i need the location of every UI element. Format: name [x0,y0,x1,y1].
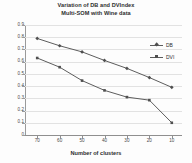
chart-title-block: Variation of DB and DVIndex Multi-SOM wi… [0,2,192,17]
chart-title: Variation of DB and DVIndex [0,2,192,10]
data-point-db [103,59,107,63]
x-tick-label: 10 [163,139,181,144]
data-point-dvi [58,66,61,69]
data-point-db [148,76,152,80]
x-tick-label: 60 [51,139,69,144]
y-tick-mark [22,135,25,136]
chart-container: Variation of DB and DVIndex Multi-SOM wi… [0,0,192,163]
square-marker-icon [155,55,158,58]
legend-label-db: DB [166,41,173,50]
x-tick-label: 50 [73,139,91,144]
data-point-db [35,37,39,41]
chart-subtitle: Multi-SOM with Wine data [0,10,192,18]
data-point-dvi [81,79,84,82]
data-point-dvi [170,121,173,124]
diamond-marker-icon [154,42,159,47]
data-point-dvi [126,96,129,99]
x-tick-mark [37,136,38,139]
x-tick-mark [60,136,61,139]
data-point-dvi [148,99,151,102]
chart-legend: DB DVI [150,41,190,65]
data-point-db [58,44,62,48]
x-tick-label: 40 [96,139,114,144]
x-axis-line [25,135,182,136]
x-tick-mark [105,136,106,139]
x-tick-mark [127,136,128,139]
x-tick-mark [149,136,150,139]
x-tick-label: 30 [118,139,136,144]
data-point-dvi [103,89,106,92]
data-point-dvi [36,57,39,60]
x-axis-title: Number of clusters [0,150,192,156]
data-point-db [125,67,129,71]
x-tick-label: 70 [28,139,46,144]
data-point-db [170,85,174,89]
legend-item-db[interactable]: DB [150,41,190,53]
legend-item-dvi[interactable]: DVI [150,53,190,65]
x-tick-mark [82,136,83,139]
data-point-db [80,50,84,54]
legend-label-dvi: DVI [166,53,174,62]
x-tick-label: 20 [140,139,158,144]
x-tick-mark [172,136,173,139]
